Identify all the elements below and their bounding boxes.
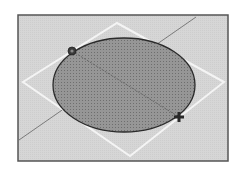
circle-point-icon[interactable] (68, 47, 76, 55)
scene-canvas[interactable] (0, 0, 245, 175)
modeling-viewport[interactable] (0, 0, 245, 175)
